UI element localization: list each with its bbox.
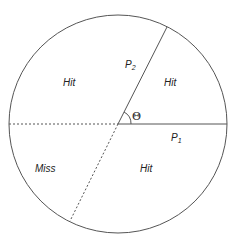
- theta-arc: [124, 112, 131, 124]
- lower-dashed-line: [70, 124, 118, 221]
- p2-label: P2: [125, 60, 136, 71]
- region-label-lower-left: Miss: [35, 164, 56, 174]
- p1-label: P1: [171, 133, 182, 144]
- theta-label: Θ: [132, 111, 141, 122]
- region-label-upper-left: Hit: [63, 78, 75, 88]
- region-label-lower-right: Hit: [140, 164, 152, 174]
- p2-line: [118, 27, 167, 124]
- region-label-upper-right: Hit: [164, 78, 176, 88]
- diagram-canvas: [0, 0, 236, 245]
